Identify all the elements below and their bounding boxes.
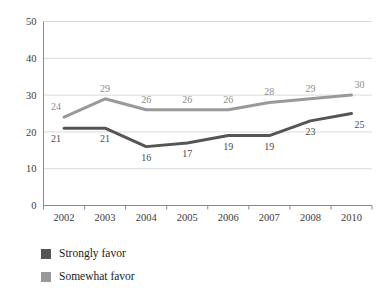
y-axis-tick-label: 0 <box>31 200 36 211</box>
data-point-label: 16 <box>141 152 151 163</box>
x-axis-tick-label: 2005 <box>177 212 198 223</box>
line-chart: 01020304050 2002200320042005200620072008… <box>0 0 382 299</box>
chart-legend: Strongly favor Somewhat favor <box>41 247 135 284</box>
data-point-label: 26 <box>223 94 233 105</box>
data-point-label: 30 <box>354 79 364 90</box>
legend-item-label: Strongly favor <box>59 248 126 260</box>
y-axis-tick-label: 50 <box>26 16 37 27</box>
data-point-label: 19 <box>223 141 233 152</box>
gridlines <box>44 22 373 206</box>
data-point-label: 29 <box>100 83 110 94</box>
series-line <box>64 95 351 117</box>
x-axis-tick-label: 2002 <box>54 212 75 223</box>
legend-item-strongly-favor[interactable]: Strongly favor <box>41 247 135 261</box>
y-axis-tick-label: 30 <box>26 90 37 101</box>
x-axis-tick-label: 2008 <box>300 212 321 223</box>
data-point-label: 21 <box>100 133 110 144</box>
data-point-label: 23 <box>305 126 315 137</box>
x-axis-tick-label: 2003 <box>95 212 116 223</box>
x-axis-tick-labels: 20022003200420052006200720082010 <box>54 212 362 223</box>
x-axis-tick-label: 2010 <box>341 212 362 223</box>
x-axis-tick-label: 2007 <box>259 212 280 223</box>
x-axis-tick-label: 2004 <box>136 212 158 223</box>
y-axis-tick-labels: 01020304050 <box>26 16 37 211</box>
data-point-label: 24 <box>51 101 61 112</box>
data-point-label: 21 <box>51 133 61 144</box>
data-point-label: 29 <box>305 83 315 94</box>
data-point-label: 26 <box>141 94 151 105</box>
data-point-label: 26 <box>182 94 192 105</box>
x-axis-tick-label: 2006 <box>218 212 239 223</box>
data-point-label: 25 <box>354 119 364 130</box>
y-axis-tick-label: 40 <box>26 53 37 64</box>
data-point-label: 19 <box>264 141 274 152</box>
y-axis-tick-label: 10 <box>26 163 37 174</box>
legend-item-label: Somewhat favor <box>59 271 135 283</box>
legend-swatch-icon <box>41 249 51 259</box>
data-point-label: 17 <box>182 148 192 159</box>
x-axis-tick-marks <box>44 206 373 210</box>
legend-item-somewhat-favor[interactable]: Somewhat favor <box>41 270 135 284</box>
data-point-label: 28 <box>264 86 274 97</box>
legend-swatch-icon <box>41 272 51 282</box>
y-axis-tick-label: 20 <box>26 127 37 138</box>
